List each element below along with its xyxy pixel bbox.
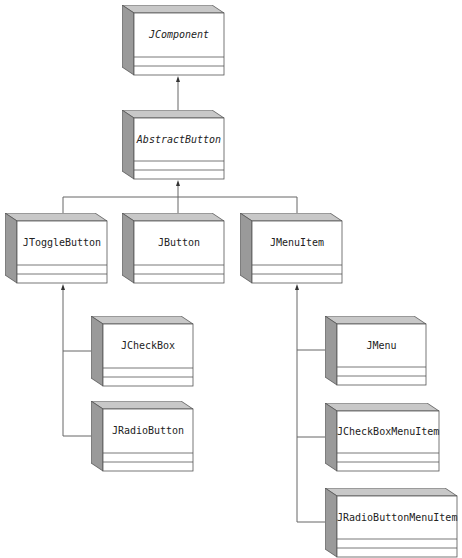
class-name-jtogglebutton: JToggleButton <box>17 221 107 265</box>
class-name-jcheckbox: JCheckBox <box>103 324 193 368</box>
class-box-jcheckbox: JCheckBox <box>91 316 193 386</box>
class-diagram: JComponentAbstractButtonJToggleButtonJBu… <box>0 0 462 558</box>
class-box-jcomponent: JComponent <box>122 5 224 75</box>
class-name-jbutton: JButton <box>134 221 224 265</box>
class-box-jmenu: JMenu <box>325 316 426 385</box>
class-box-jradiobutton: JRadioButton <box>91 401 193 471</box>
class-name-jradiobuttonmenuitem: JRadioButtonMenuItem <box>337 496 457 539</box>
arrowhead-jmenuitem <box>295 284 299 290</box>
class-box-jtogglebutton: JToggleButton <box>5 213 107 283</box>
class-name-jradiobutton: JRadioButton <box>103 409 193 453</box>
class-name-jmenu: JMenu <box>337 324 426 367</box>
class-box-jcheckboxmenuitem: JCheckBoxMenuItem <box>325 403 439 471</box>
class-box-jradiobuttonmenuitem: JRadioButtonMenuItem <box>325 488 457 557</box>
class-name-jcheckboxmenuitem: JCheckBoxMenuItem <box>337 411 439 453</box>
class-box-abstractbutton: AbstractButton <box>122 110 224 179</box>
class-name-jmenuitem: JMenuItem <box>252 221 342 265</box>
arrowhead-jcomponent <box>176 76 180 82</box>
class-name-jcomponent: JComponent <box>134 13 224 57</box>
class-box-jmenuitem: JMenuItem <box>240 213 342 283</box>
class-box-jbutton: JButton <box>122 213 224 283</box>
arrowhead-abstractbutton <box>176 180 180 186</box>
arrowhead-jtogglebutton <box>61 284 65 290</box>
class-name-abstractbutton: AbstractButton <box>134 118 224 161</box>
